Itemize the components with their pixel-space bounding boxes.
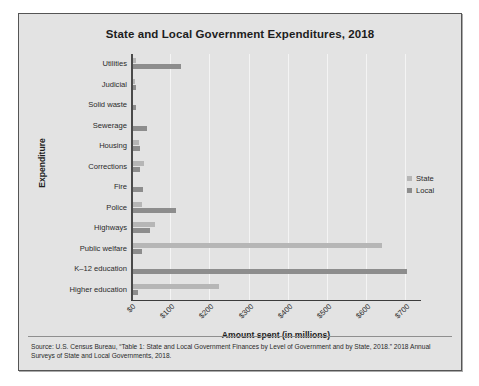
y-axis-tick-labels: UtilitiesJudicialSolid wasteSewerageHous… [35, 54, 127, 300]
bar-group [131, 280, 421, 301]
bar-local [131, 64, 181, 69]
bar-local [131, 126, 147, 131]
y-tick-label: Utilities [37, 59, 127, 68]
bar-group [131, 177, 421, 198]
legend-item: Local [407, 184, 461, 196]
chart-legend: StateLocal [407, 172, 461, 196]
y-tick-label: Solid waste [37, 100, 127, 109]
y-tick-label: Sewerage [37, 121, 127, 130]
y-tick-label: Highways [37, 223, 127, 232]
y-tick-label: Higher education [37, 285, 127, 294]
y-tick-label: K–12 education [37, 264, 127, 273]
legend-swatch [407, 188, 412, 193]
y-axis-line [131, 54, 133, 300]
plot-area [131, 54, 421, 300]
bar-group [131, 239, 421, 260]
chart-figure: State and Local Government Expenditures,… [18, 13, 462, 371]
legend-label: State [416, 174, 434, 183]
legend-swatch [407, 176, 412, 181]
legend-label: Local [416, 186, 434, 195]
bar-group [131, 136, 421, 157]
bar-group [131, 116, 421, 137]
bar-state [131, 222, 155, 227]
y-tick-label: Fire [37, 182, 127, 191]
bar-local [131, 208, 176, 213]
bar-local [131, 269, 407, 274]
bar-group [131, 95, 421, 116]
y-tick-label: Housing [37, 141, 127, 150]
bar-group [131, 54, 421, 75]
y-tick-label: Public welfare [37, 244, 127, 253]
bar-group [131, 75, 421, 96]
x-axis-label: Amount spent (in millions) [131, 330, 421, 340]
bar-group [131, 218, 421, 239]
source-note: Source: U.S. Census Bureau, “Table 1: St… [31, 342, 451, 360]
bar-state [131, 284, 219, 289]
bar-local [131, 228, 150, 233]
source-divider [28, 336, 452, 337]
y-tick-label: Judicial [37, 80, 127, 89]
bar-group [131, 198, 421, 219]
bar-state [131, 243, 382, 248]
legend-item: State [407, 172, 461, 184]
y-tick-label: Corrections [37, 162, 127, 171]
y-axis-label: Expenditure [37, 118, 47, 208]
x-axis-line [131, 300, 421, 302]
bar-group [131, 259, 421, 280]
y-tick-label: Police [37, 203, 127, 212]
bar-group [131, 157, 421, 178]
chart-title: State and Local Government Expenditures,… [19, 28, 461, 40]
